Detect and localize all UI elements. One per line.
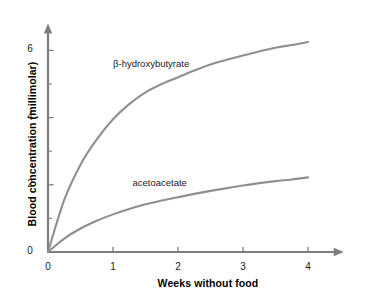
- series-line-0: [48, 42, 308, 252]
- series-label-beta-hydroxybutyrate: β-hydroxybutyrate: [113, 58, 189, 69]
- y-tick-label: 0: [20, 245, 40, 256]
- y-axis-title: Blood concentration (millimolar): [26, 49, 38, 239]
- data-series: [48, 42, 308, 252]
- axes: [44, 24, 344, 257]
- series-line-1: [48, 177, 308, 252]
- y-tick-label: 4: [20, 111, 40, 122]
- x-tick-label: 2: [168, 261, 188, 272]
- tick-marks: [48, 50, 308, 252]
- chart-container: Blood concentration (millimolar) Weeks w…: [0, 0, 371, 299]
- x-axis-arrow: [334, 248, 344, 256]
- x-tick-label: 1: [103, 261, 123, 272]
- y-axis-arrow: [44, 24, 52, 34]
- x-axis-title: Weeks without food: [108, 277, 308, 289]
- series-label-acetoacetate: acetoacetate: [133, 177, 187, 188]
- x-tick-label: 4: [298, 261, 318, 272]
- y-tick-label: 2: [20, 178, 40, 189]
- y-tick-label: 6: [20, 43, 40, 54]
- x-tick-label: 0: [38, 261, 58, 272]
- x-tick-label: 3: [233, 261, 253, 272]
- plot-area: [0, 0, 371, 299]
